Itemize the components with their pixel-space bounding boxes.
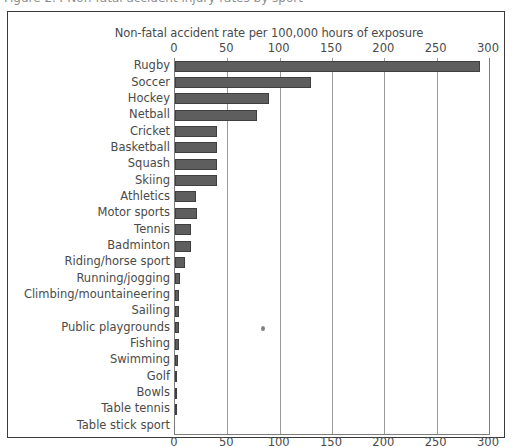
category-label: Soccer: [131, 77, 170, 89]
category-label: Squash: [128, 158, 170, 170]
category-label: Running/jogging: [76, 273, 170, 285]
x-tick-label-bottom-50: 50: [219, 435, 234, 447]
category-label: Skiing: [135, 175, 170, 187]
category-label: Cricket: [130, 126, 170, 138]
ink-speck-artifact: [261, 326, 265, 331]
x-tick-label-bottom-200: 200: [372, 435, 394, 447]
x-tick-label-top-250: 250: [425, 41, 447, 55]
category-labels-layer: RugbySoccerHockeyNetballCricketBasketbal…: [175, 58, 489, 434]
category-label: Sailing: [131, 305, 170, 317]
x-tick-label-bottom-100: 100: [268, 435, 290, 447]
category-label: Climbing/mountaineering: [24, 289, 170, 301]
x-tick-label-top-100: 100: [268, 41, 290, 55]
x-tick-label-top-300: 300: [477, 41, 499, 55]
figure-caption: Figure 2.4 Non-fatal accident injury rat…: [4, 0, 303, 5]
x-tick-label-top-50: 50: [219, 41, 234, 55]
x-tick-label-bottom-250: 250: [425, 435, 447, 447]
category-label: Bowls: [136, 387, 170, 399]
category-label: Rugby: [134, 60, 170, 72]
x-tick-label-top-150: 150: [320, 41, 342, 55]
category-label: Badminton: [107, 240, 170, 252]
category-label: Motor sports: [98, 207, 170, 219]
x-axis-ticks-top: 050100150200250300: [8, 41, 506, 56]
figure-caption-strip: Figure 2.4 Non-fatal accident injury rat…: [0, 0, 513, 10]
plot-area: RugbySoccerHockeyNetballCricketBasketbal…: [174, 58, 490, 435]
x-tick-label-bottom-0: 0: [170, 435, 177, 447]
x-tick-label-top-200: 200: [372, 41, 394, 55]
x-axis-ticks-bottom: 050100150200250300: [8, 435, 506, 447]
x-tick-label-bottom-300: 300: [477, 435, 499, 447]
x-axis-title: Non-fatal accident rate per 100,000 hour…: [8, 26, 506, 40]
category-label: Tennis: [134, 224, 170, 236]
category-label: Fishing: [130, 338, 170, 350]
category-label: Hockey: [128, 93, 170, 105]
figure-frame: Non-fatal accident rate per 100,000 hour…: [7, 11, 505, 438]
category-label: Public playgrounds: [61, 322, 170, 334]
category-label: Table stick sport: [77, 420, 170, 432]
x-tick-label-bottom-150: 150: [320, 435, 342, 447]
category-label: Swimming: [110, 354, 170, 366]
category-label: Golf: [147, 371, 170, 383]
category-label: Riding/horse sport: [65, 256, 170, 268]
x-tick-label-top-0: 0: [170, 41, 177, 55]
category-label: Athletics: [120, 191, 170, 203]
x-axis-title-text: Non-fatal accident rate per 100,000 hour…: [115, 26, 424, 40]
category-label: Netball: [129, 109, 170, 121]
category-label: Table tennis: [101, 403, 170, 415]
category-label: Basketball: [111, 142, 171, 154]
